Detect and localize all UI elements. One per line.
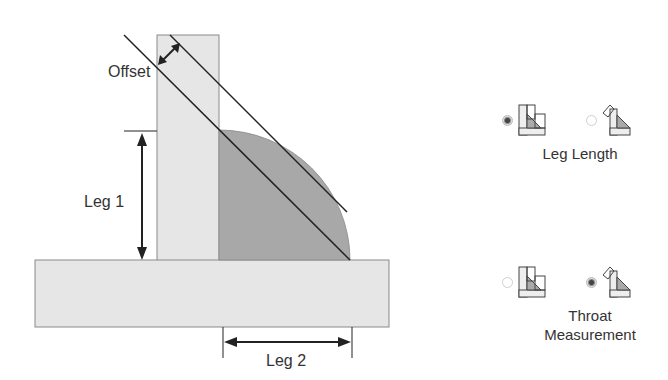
- throat-radio-throat[interactable]: [586, 277, 597, 288]
- leg-length-caption: Leg Length: [525, 145, 635, 163]
- leg1-label: Leg 1: [84, 193, 124, 210]
- throat-weld-icon: [600, 265, 634, 299]
- horizontal-plate: [35, 260, 389, 327]
- leg-length-radio-throat[interactable]: [586, 115, 597, 126]
- throat-caption-line2: Measurement: [520, 326, 660, 344]
- leg2-arrowhead-right: [338, 337, 351, 347]
- leg2-arrowhead-left: [224, 337, 237, 347]
- leg1-arrowhead-bottom: [137, 247, 147, 260]
- leg-length-weld-icon: [515, 103, 549, 137]
- throat-radio-leg[interactable]: [502, 277, 513, 288]
- throat-measurement-option-group: Throat Measurement: [495, 262, 665, 362]
- leg-length-weld-icon: [515, 265, 549, 299]
- throat-caption-line1: Throat: [525, 307, 655, 325]
- vertical-plate: [157, 35, 219, 261]
- leg-length-option-group: Leg Length: [495, 100, 665, 170]
- leg1-arrowhead-top: [137, 133, 147, 146]
- throat-weld-icon: [600, 103, 634, 137]
- leg-length-radio-leg[interactable]: [502, 115, 513, 126]
- leg2-label: Leg 2: [266, 352, 306, 369]
- offset-label: Offset: [108, 63, 151, 80]
